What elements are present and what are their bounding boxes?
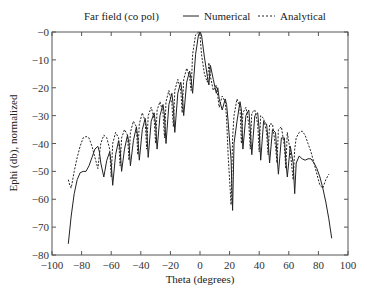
chart-title: Far field (co pol) bbox=[84, 10, 159, 23]
x-tick-label: −100 bbox=[41, 259, 64, 271]
y-axis-label: Ephi (db), normalized bbox=[7, 94, 20, 191]
analytical-series-line bbox=[68, 32, 329, 205]
chart-legend: Far field (co pol) Numerical Analytical bbox=[84, 10, 326, 23]
numerical-series-line bbox=[68, 32, 331, 244]
plot-area bbox=[68, 32, 331, 244]
axis-ticks bbox=[52, 32, 348, 255]
y-tick-labels: −0−10−20−30−40−50−60−70−80 bbox=[32, 26, 50, 261]
x-tick-label: −60 bbox=[103, 259, 121, 271]
plot-frame bbox=[52, 32, 348, 255]
x-tick-labels: −100−80−60−40−20020406080100 bbox=[41, 259, 357, 271]
x-tick-label: 20 bbox=[224, 259, 236, 271]
legend-numerical-label: Numerical bbox=[204, 10, 250, 22]
y-tick-label: −10 bbox=[32, 54, 50, 66]
y-tick-label: −50 bbox=[32, 165, 50, 177]
y-tick-label: −30 bbox=[32, 110, 50, 122]
x-tick-label: −40 bbox=[132, 259, 150, 271]
y-tick-label: −60 bbox=[32, 193, 50, 205]
x-axis-label: Theta (degrees) bbox=[166, 273, 235, 286]
x-tick-label: −20 bbox=[162, 259, 180, 271]
y-tick-label: −0 bbox=[37, 26, 49, 38]
x-tick-label: 40 bbox=[254, 259, 266, 271]
legend-analytical-label: Analytical bbox=[280, 10, 326, 22]
far-field-chart: Far field (co pol) Numerical Analytical … bbox=[0, 0, 367, 303]
y-tick-label: −70 bbox=[32, 221, 50, 233]
y-tick-label: −40 bbox=[32, 138, 50, 150]
x-tick-label: 100 bbox=[340, 259, 357, 271]
x-tick-label: 0 bbox=[197, 259, 203, 271]
y-tick-label: −20 bbox=[32, 82, 50, 94]
x-tick-label: 60 bbox=[283, 259, 295, 271]
x-tick-label: −80 bbox=[73, 259, 91, 271]
x-tick-label: 80 bbox=[313, 259, 325, 271]
